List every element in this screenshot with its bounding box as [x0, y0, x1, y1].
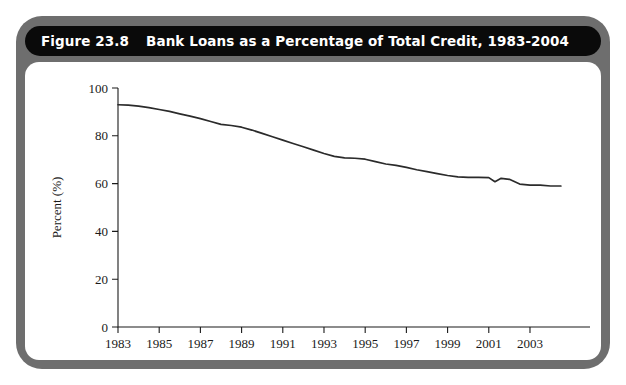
figure-container: Figure 23.8 Bank Loans as a Percentage o…: [0, 0, 626, 385]
x-tick-label: 1987: [187, 336, 214, 351]
y-tick-label: 80: [95, 128, 108, 143]
line-chart: 020406080100 198319851987198919911993199…: [25, 62, 601, 360]
figure-title: Bank Loans as a Percentage of Total Cred…: [146, 33, 569, 49]
chart-panel: 020406080100 198319851987198919911993199…: [25, 62, 601, 360]
axis-frame: [118, 88, 590, 327]
x-tick-label: 1993: [311, 336, 337, 351]
data-series-line: [118, 105, 561, 186]
y-axis-ticks: [112, 88, 118, 327]
y-tick-label: 60: [95, 176, 108, 191]
y-axis-title: Percent (%): [49, 177, 64, 239]
x-tick-label: 1991: [270, 336, 296, 351]
x-tick-label: 2001: [476, 336, 502, 351]
x-axis-ticks: [118, 327, 530, 333]
x-tick-label: 2003: [517, 336, 543, 351]
x-tick-label: 1997: [393, 336, 420, 351]
y-tick-label: 20: [95, 272, 108, 287]
x-tick-label: 1995: [352, 336, 378, 351]
x-axis-tick-labels: 1983198519871989199119931995199719992001…: [105, 336, 543, 351]
x-tick-label: 1985: [146, 336, 172, 351]
figure-title-bar: Figure 23.8 Bank Loans as a Percentage o…: [25, 26, 601, 56]
x-tick-label: 1983: [105, 336, 131, 351]
x-tick-label: 1999: [435, 336, 461, 351]
x-tick-label: 1989: [229, 336, 255, 351]
y-tick-label: 40: [95, 224, 108, 239]
y-tick-label: 100: [89, 81, 109, 96]
figure-number: Figure 23.8: [41, 33, 129, 49]
y-tick-label: 0: [102, 320, 109, 335]
y-axis-tick-labels: 020406080100: [89, 81, 109, 335]
